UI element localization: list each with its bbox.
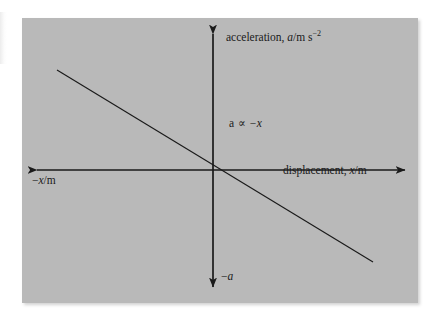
relation-rhs: x bbox=[257, 117, 263, 129]
page-edge-artifact bbox=[0, 12, 7, 64]
x-axis-label-unit: /m bbox=[355, 164, 367, 176]
y-axis-negative-label: −a bbox=[221, 271, 233, 283]
proportional-icon: ∝ bbox=[238, 117, 246, 129]
x-axis-negative-label: −x/m bbox=[32, 175, 56, 187]
relation-sign: − bbox=[250, 117, 257, 129]
y-axis-label-prefix: acceleration, bbox=[226, 31, 287, 43]
x-axis-label: displacement, x/m bbox=[283, 165, 367, 177]
x-axis-negative-unit: /m bbox=[44, 174, 56, 186]
y-axis-label-unit: /m s bbox=[293, 31, 313, 43]
x-axis-label-prefix: displacement, bbox=[283, 164, 349, 176]
y-axis-negative-symbol: a bbox=[228, 270, 234, 282]
y-axis-label: acceleration, a/m s−2 bbox=[226, 30, 321, 43]
relation-lhs: a bbox=[229, 117, 235, 129]
physics-graph-figure: acceleration, a/m s−2 displacement, x/m … bbox=[0, 0, 439, 321]
y-axis-label-exponent: −2 bbox=[313, 29, 322, 38]
plot-panel-background bbox=[22, 18, 418, 303]
relation-annotation: a ∝ −x bbox=[229, 118, 262, 130]
